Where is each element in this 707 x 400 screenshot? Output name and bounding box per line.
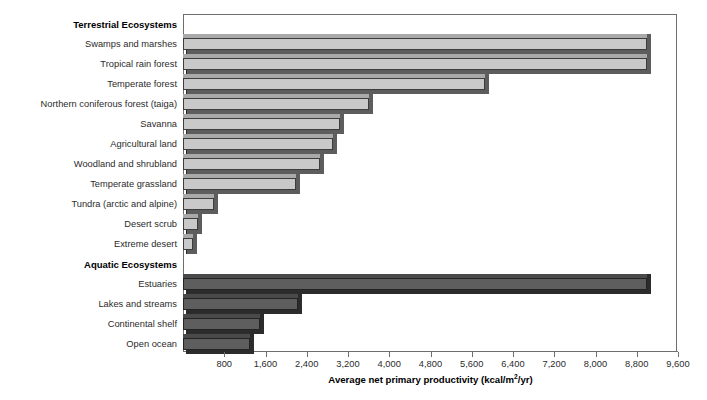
bar-face — [183, 338, 250, 350]
x-axis-tick-label: 2,400 — [295, 359, 318, 369]
category-label: Agricultural land — [0, 139, 177, 150]
bar-face — [183, 98, 369, 110]
bar-right-bevel — [260, 314, 264, 330]
x-axis-tick-label: 4,800 — [419, 359, 442, 369]
x-axis-tick-label: 1,600 — [254, 359, 277, 369]
bar-face — [183, 58, 647, 70]
category-label: Temperate forest — [0, 79, 177, 90]
category-label: Tropical rain forest — [0, 59, 177, 70]
x-axis-tick-label: 5,600 — [460, 359, 483, 369]
bar — [183, 158, 320, 170]
category-label: Savanna — [0, 119, 177, 130]
x-axis-tick-label: 4,000 — [378, 359, 401, 369]
bar-right-bevel — [198, 214, 202, 230]
bar — [183, 338, 250, 350]
bar-face — [183, 78, 485, 90]
bar-face — [183, 278, 647, 290]
x-axis-tick — [678, 352, 679, 357]
x-axis-tick — [307, 352, 308, 357]
bar-bottom-bevel — [186, 350, 254, 354]
bar-face — [183, 238, 193, 250]
x-axis-tick — [472, 352, 473, 357]
bar — [183, 198, 214, 210]
x-axis-title: Average net primary productivity (kcal/m… — [183, 374, 678, 385]
x-axis-tick — [224, 352, 225, 357]
bar — [183, 118, 340, 130]
x-axis-title-after: /yr) — [518, 374, 533, 385]
bar-right-bevel — [369, 94, 373, 110]
group-header-aquatic: Aquatic Ecosystems — [0, 259, 177, 270]
bar-right-bevel — [320, 154, 324, 170]
bar-right-bevel — [647, 34, 651, 50]
category-label: Desert scrub — [0, 219, 177, 230]
x-axis-tick-label: 8,800 — [625, 359, 648, 369]
x-axis-title-before: Average net primary productivity (kcal/m — [328, 374, 514, 385]
x-axis-tick-label: 800 — [216, 359, 232, 369]
group-header-terrestrial: Terrestrial Ecosystems — [0, 19, 177, 30]
x-axis-tick-label: 6,400 — [501, 359, 524, 369]
bar-right-bevel — [296, 174, 300, 190]
category-label-column: Terrestrial EcosystemsSwamps and marshes… — [0, 0, 180, 400]
bar-right-bevel — [193, 234, 197, 250]
bar-face — [183, 138, 333, 150]
bar — [183, 38, 647, 50]
bar-face — [183, 118, 340, 130]
bar-bottom-bevel — [186, 250, 197, 254]
bar — [183, 218, 198, 230]
bar-right-bevel — [214, 194, 218, 210]
category-label: Continental shelf — [0, 319, 177, 330]
bar-face — [183, 198, 214, 210]
x-axis-tick — [431, 352, 432, 357]
bar-right-bevel — [647, 274, 651, 290]
bar-right-bevel — [647, 54, 651, 70]
x-axis-tick-label: 3,200 — [336, 359, 359, 369]
bar-right-bevel — [340, 114, 344, 130]
x-axis-tick-label: 9,600 — [666, 359, 689, 369]
bar — [183, 138, 333, 150]
bar — [183, 298, 298, 310]
category-label: Woodland and shrubland — [0, 159, 177, 170]
bar-right-bevel — [250, 334, 254, 350]
category-label: Northern coniferous forest (taiga) — [0, 99, 177, 110]
category-label: Open ocean — [0, 339, 177, 350]
bar — [183, 58, 647, 70]
bar-face — [183, 218, 198, 230]
bar — [183, 78, 485, 90]
plot-area: 8001,6002,4003,2004,0004,8005,6006,4007,… — [183, 14, 678, 352]
category-label: Swamps and marshes — [0, 39, 177, 50]
x-axis-tick — [554, 352, 555, 357]
bar-face — [183, 158, 320, 170]
x-axis-tick — [637, 352, 638, 357]
x-axis-tick — [266, 352, 267, 357]
x-axis-tick — [389, 352, 390, 357]
bar-right-bevel — [333, 134, 337, 150]
x-axis-tick-label: 7,200 — [543, 359, 566, 369]
bar — [183, 318, 260, 330]
category-label: Tundra (arctic and alpine) — [0, 199, 177, 210]
bar-right-bevel — [298, 294, 302, 310]
category-label: Estuaries — [0, 279, 177, 290]
bar — [183, 238, 193, 250]
category-label: Lakes and streams — [0, 299, 177, 310]
x-axis-tick — [596, 352, 597, 357]
bar-face — [183, 318, 260, 330]
productivity-bar-chart: Terrestrial EcosystemsSwamps and marshes… — [0, 0, 707, 400]
bar — [183, 98, 369, 110]
category-label: Temperate grassland — [0, 179, 177, 190]
bar — [183, 178, 296, 190]
bar-face — [183, 178, 296, 190]
bar-face — [183, 38, 647, 50]
x-axis-tick — [348, 352, 349, 357]
bar-right-bevel — [485, 74, 489, 90]
x-axis-tick-label: 8,000 — [584, 359, 607, 369]
x-axis-tick — [513, 352, 514, 357]
bar-face — [183, 298, 298, 310]
bar — [183, 278, 647, 290]
category-label: Extreme desert — [0, 239, 177, 250]
